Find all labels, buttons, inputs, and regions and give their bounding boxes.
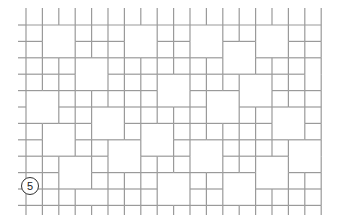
- tile-pattern-figure: [0, 0, 346, 215]
- figure-reference-label: 5: [21, 177, 39, 195]
